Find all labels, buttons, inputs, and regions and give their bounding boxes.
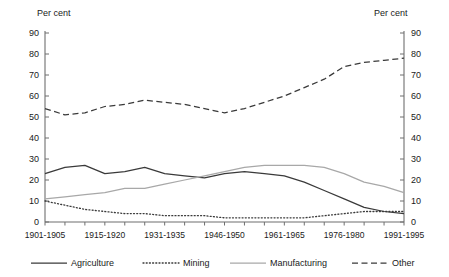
series-line-agriculture [45,165,404,213]
x-tick-label: 1991-1995 [384,230,425,240]
y-tick-label: 80 [411,49,421,59]
y-tick-label: 0 [411,217,416,227]
x-tick-label: 1915-1920 [85,230,126,240]
left-y-axis: 9080706050403020100 [29,28,49,227]
chart-legend: AgricultureMiningManufacturingOther [31,258,415,268]
y-tick-label: 60 [411,91,421,101]
chart-container: Per cent Per cent 9080706050403020100 90… [0,0,449,277]
legend-label-other: Other [392,258,415,268]
right-axis-unit-label: Per cent [374,8,408,18]
x-tick-label: 1946-1950 [204,230,245,240]
left-axis-unit-label: Per cent [37,8,71,18]
y-tick-label: 30 [411,154,421,164]
series-line-other [45,58,404,115]
x-tick-label: 1961-1965 [264,230,305,240]
y-tick-label: 40 [411,133,421,143]
y-tick-label: 80 [29,49,39,59]
y-tick-label: 90 [411,28,421,38]
series-line-mining [45,201,404,218]
y-tick-label: 10 [411,196,421,206]
y-tick-label: 0 [34,217,39,227]
y-tick-label: 20 [411,175,421,185]
x-axis: 1901-19051915-19201931-19351946-19501961… [25,222,425,240]
legend-label-agriculture: Agriculture [71,258,114,268]
y-tick-label: 90 [29,28,39,38]
line-chart: 9080706050403020100 9080706050403020100 … [0,0,449,277]
series-line-manufacturing [45,165,404,199]
y-tick-label: 40 [29,133,39,143]
y-tick-label: 20 [29,175,39,185]
y-tick-label: 10 [29,196,39,206]
legend-label-manufacturing: Manufacturing [270,258,327,268]
y-tick-label: 60 [29,91,39,101]
x-tick-label: 1931-1935 [144,230,185,240]
x-tick-label: 1976-1980 [324,230,365,240]
y-tick-label: 50 [411,112,421,122]
y-tick-label: 50 [29,112,39,122]
y-tick-label: 70 [411,70,421,80]
y-tick-label: 30 [29,154,39,164]
y-tick-label: 70 [29,70,39,80]
legend-label-mining: Mining [183,258,210,268]
plot-area [45,58,404,218]
x-tick-label: 1901-1905 [25,230,66,240]
